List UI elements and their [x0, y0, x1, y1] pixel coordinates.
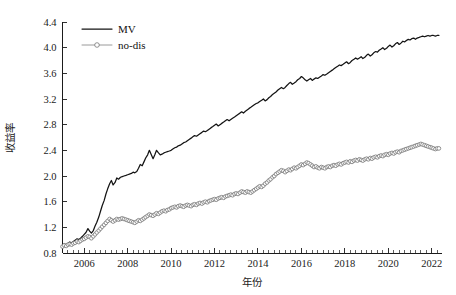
- x-axis-tick-labels: 200620082010201220142016201820202022: [74, 258, 443, 269]
- legend-label-no-dis: no-dis: [118, 39, 146, 51]
- x-tick-label: 2014: [247, 258, 269, 269]
- y-tick-label: 3.6: [43, 68, 56, 79]
- y-tick-label: 2.0: [43, 171, 56, 182]
- x-axis-ticks: [84, 248, 432, 253]
- x-tick-label: 2018: [334, 258, 355, 269]
- x-tick-label: 2006: [74, 258, 95, 269]
- x-tick-label: 2010: [161, 258, 182, 269]
- series-line-no-dis: [63, 144, 439, 247]
- y-axis-title: 收益率: [4, 123, 16, 153]
- series-line-mv: [63, 35, 439, 245]
- x-tick-label: 2022: [421, 258, 442, 269]
- legend-label-mv: MV: [118, 23, 136, 35]
- y-tick-label: 4.0: [43, 42, 56, 53]
- x-tick-label: 2020: [378, 258, 399, 269]
- y-tick-label: 0.8: [43, 248, 56, 259]
- y-tick-label: 1.6: [43, 196, 56, 207]
- x-tick-label: 2012: [204, 258, 225, 269]
- legend-marker-no-dis: [95, 43, 100, 48]
- y-axis-tick-labels: 0.81.21.62.02.42.83.23.64.04.4: [43, 17, 57, 259]
- y-tick-label: 1.2: [43, 222, 56, 233]
- chart-container: 0.81.21.62.02.42.83.23.64.04.4 200620082…: [0, 0, 456, 295]
- y-tick-label: 2.4: [43, 145, 57, 156]
- series-markers-no-dis: [61, 142, 441, 248]
- y-tick-label: 3.2: [43, 94, 56, 105]
- y-axis-ticks: [63, 22, 67, 253]
- x-tick-label: 2008: [117, 258, 138, 269]
- x-axis-title: 年份: [242, 276, 263, 288]
- chart-legend: MV no-dis: [82, 23, 146, 51]
- line-chart: 0.81.21.62.02.42.83.23.64.04.4 200620082…: [0, 0, 456, 295]
- y-tick-label: 2.8: [43, 119, 56, 130]
- x-tick-label: 2016: [291, 258, 312, 269]
- y-tick-label: 4.4: [43, 17, 57, 28]
